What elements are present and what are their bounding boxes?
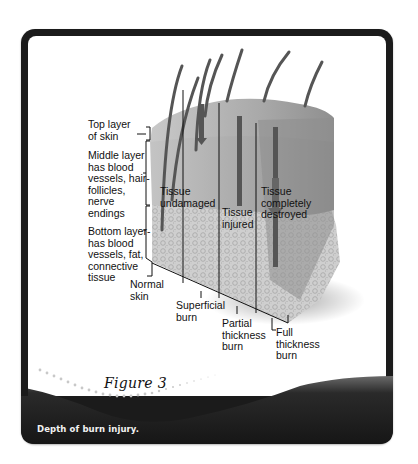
label-tissue-injured: Tissue injured	[222, 207, 254, 230]
figure-title: Figure 3	[104, 375, 167, 391]
skin-diagram	[0, 0, 418, 464]
label-middle-layer: Middle layer has blood vessels, hair- fo…	[88, 150, 150, 219]
label-partial-thickness-burn: Partial thickness burn	[222, 318, 266, 353]
frame-edge	[21, 380, 28, 396]
figure-caption: Depth of burn injury.	[37, 424, 139, 434]
label-full-thickness-burn: Full thickness burn	[276, 327, 320, 362]
label-bottom-layer: Bottom layer- has blood vessels, fat, co…	[88, 226, 150, 284]
label-top-layer: Top layer of skin	[88, 119, 131, 142]
label-superficial-burn: Superficial burn	[176, 300, 225, 323]
label-tissue-undamaged: Tissue undamaged	[160, 186, 215, 209]
label-normal-skin: Normal skin	[130, 279, 164, 302]
label-tissue-destroyed: Tissue completely destroyed	[261, 186, 311, 221]
